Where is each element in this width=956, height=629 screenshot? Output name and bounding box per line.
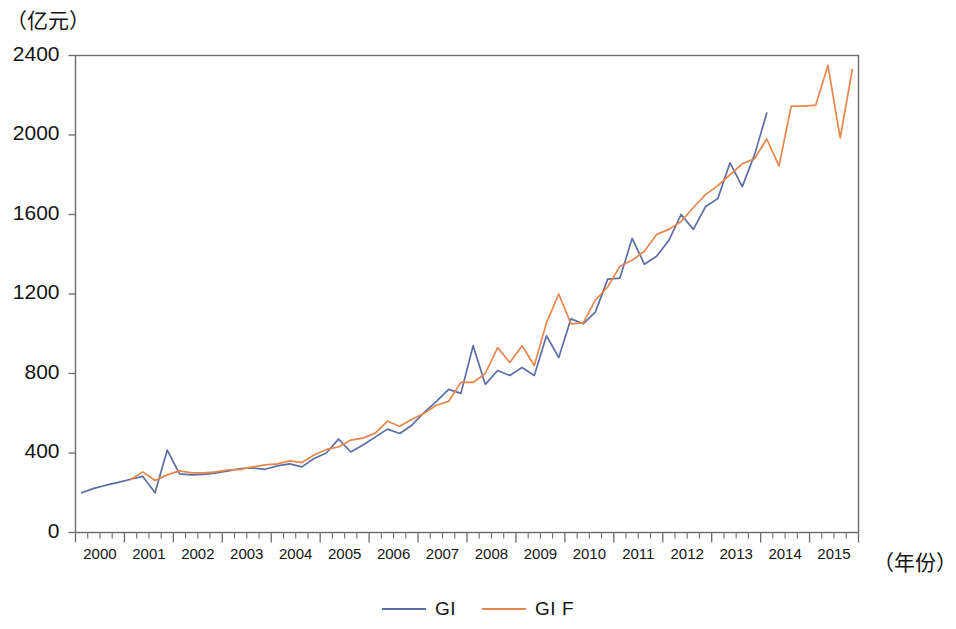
x-axis-ticks <box>76 533 859 543</box>
legend-line-swatch <box>382 608 426 610</box>
chart-legend: GIGI F <box>0 598 956 620</box>
y-axis-tick-label: 0 <box>0 519 60 543</box>
legend-item[interactable]: GI F <box>482 598 574 620</box>
legend-line-swatch <box>482 608 526 610</box>
y-axis-tick-label: 400 <box>0 439 60 463</box>
plot-area <box>0 0 956 629</box>
line-chart: （亿元） （年份） 04008001200160020002400 200020… <box>0 0 956 629</box>
legend-label: GI <box>435 598 456 620</box>
data-series-group <box>82 65 853 492</box>
x-axis-tick-label: 2015 <box>804 545 864 562</box>
axes <box>76 56 859 533</box>
plot-frame <box>76 56 859 533</box>
y-axis-tick-label: 1600 <box>0 201 60 225</box>
y-axis-tick-label: 2000 <box>0 121 60 145</box>
legend-item[interactable]: GI <box>382 598 456 620</box>
series-line-gi <box>82 113 767 493</box>
y-axis-ticks <box>69 56 76 533</box>
y-axis-tick-label: 800 <box>0 360 60 384</box>
legend-label: GI F <box>535 598 574 620</box>
y-axis-tick-label: 2400 <box>0 42 60 66</box>
series-line-gi-f <box>131 65 853 480</box>
y-axis-tick-label: 1200 <box>0 280 60 304</box>
